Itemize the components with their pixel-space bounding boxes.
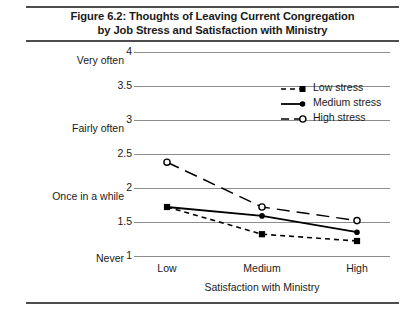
marker-low-medium <box>259 231 265 237</box>
x-axis-title: Satisfaction with Ministry <box>134 281 390 293</box>
legend-item-low-stress[interactable]: Low stress <box>281 79 393 94</box>
legend-swatch-high-stress <box>281 111 311 123</box>
legend-item-medium-stress[interactable]: Medium stress <box>281 94 393 109</box>
xtick-label-medium: Medium <box>227 262 297 274</box>
legend-label-medium-stress: Medium stress <box>313 96 381 108</box>
legend-label-high-stress: High stress <box>313 111 366 123</box>
marker-low-low <box>164 204 170 210</box>
marker-medium-high <box>354 229 360 235</box>
legend-swatch-medium-stress <box>281 96 311 108</box>
marker-low-high <box>354 238 360 244</box>
marker-medium-medium <box>259 213 265 219</box>
series-high-stress-line <box>167 162 357 220</box>
marker-high-low <box>164 159 170 165</box>
legend-item-high-stress[interactable]: High stress <box>281 109 393 124</box>
marker-high-high <box>354 218 360 224</box>
legend-label-low-stress: Low stress <box>313 81 363 93</box>
marker-high-medium <box>259 204 265 210</box>
figure-container: Figure 6.2: Thoughts of Leaving Current … <box>0 0 411 319</box>
bottom-horizontal-rule <box>26 302 399 304</box>
chart-legend: Low stress Medium stress <box>281 79 393 124</box>
chart-plot-area: 4 3.5 3 2.5 2 1.5 1 Very often Fairly of… <box>0 0 411 319</box>
legend-swatch-low-stress <box>281 81 311 93</box>
xtick-label-high: High <box>322 262 392 274</box>
xtick-label-low: Low <box>132 262 202 274</box>
